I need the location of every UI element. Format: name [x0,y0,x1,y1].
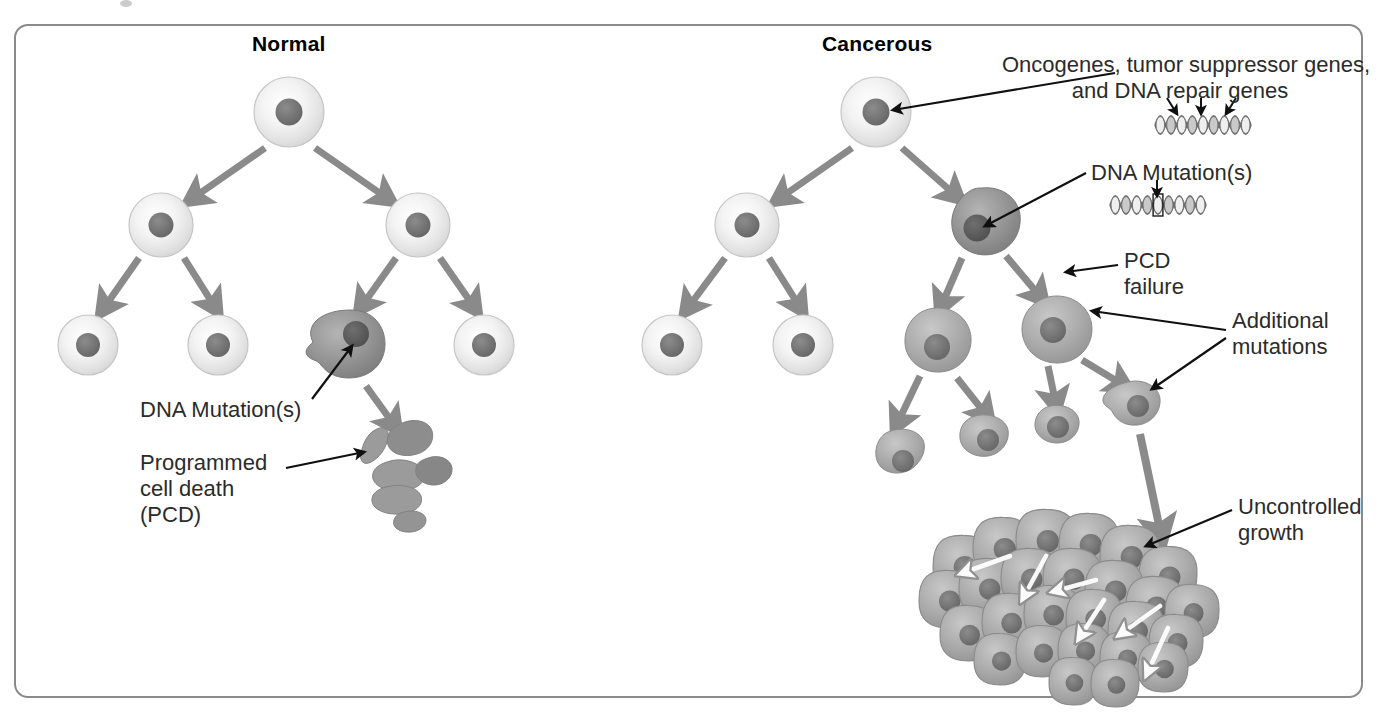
leader-additional-mutations-upper [1092,311,1226,330]
cell-normal-g2-b [188,315,248,375]
cell-cancer-g3-a [876,429,925,473]
cell-normal-g2-a [58,315,118,375]
column-title-cancerous: Cancerous [822,32,932,56]
cell-cancer-g3-c [1035,405,1079,443]
label-dna-mutations-left: DNA Mutation(s) [140,397,301,423]
cell-cancer-g2-a [642,315,702,375]
cell-cancer-g1-left [715,193,779,257]
tumor-mass [919,509,1219,707]
cell-normal-g2-d [454,315,514,375]
label-oncogenes: Oncogenes, tumor suppressor genes, and D… [1002,52,1358,104]
cell-cancer-mutated [952,188,1020,255]
cell-cancer-g2-d [1022,296,1092,363]
cell-cancer-root [841,77,911,147]
label-dna-mutations-right: DNA Mutation(s) [1091,160,1252,186]
normal-cell-lineage [58,77,514,378]
cell-normal-mutated [306,310,385,378]
cell-normal-g1-left [129,193,193,257]
label-uncontrolled-growth: Uncontrolled growth [1238,494,1362,546]
column-title-normal: Normal [252,32,326,56]
apoptotic-fragments [361,420,453,532]
cell-cancer-g2-c [905,308,971,372]
leader-pcd-failure [1066,265,1118,272]
cancerous-root-nucleus [863,99,890,126]
dna-strand-genes [1155,116,1251,134]
label-pcd-failure: PCD failure [1124,248,1184,300]
cell-cancer-g3-b [960,415,1008,456]
label-additional-mutations: Additional mutations [1232,308,1329,360]
normal-division-arrows [106,148,472,422]
leader-programmed-cell-death [286,452,364,468]
cell-normal-g1-right [386,193,450,257]
leader-additional-mutations-lower [1152,338,1226,389]
diagram-artwork [0,0,1379,715]
cell-cancer-g3-d [1103,381,1160,425]
cell-cancer-g2-b [773,315,833,375]
label-programmed-cell-death: Programmed cell death (PCD) [140,450,267,528]
cell-normal-root [254,77,324,147]
tumor-growth-arrow [1140,434,1160,530]
normal-mutated-cell-nucleus [343,321,369,347]
dna-strand-mutated [1110,194,1206,216]
figure-stage: Normal Cancerous Oncogenes, tumor suppre… [0,0,1379,715]
cancerous-mutated-cell-nucleus [964,215,991,242]
